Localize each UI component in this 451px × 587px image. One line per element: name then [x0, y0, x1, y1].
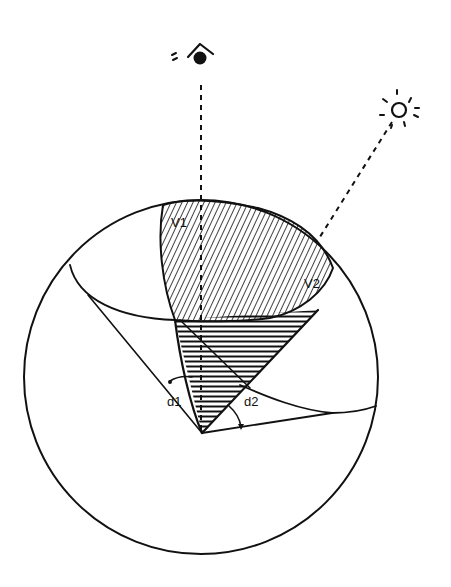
angle-d1-marker [168, 380, 172, 384]
horizon-arc-right [240, 385, 376, 413]
cone-lower-shading [175, 310, 318, 433]
radius-line-right [202, 413, 332, 433]
label-v2: V2 [304, 276, 320, 291]
label-v1: V1 [171, 215, 187, 230]
sphere-diagram: V1 V2 d1 d2 [0, 0, 451, 587]
eye-icon [172, 44, 213, 65]
label-d1: d1 [167, 394, 181, 409]
light-line [318, 122, 392, 240]
angle-arc-d2 [228, 405, 241, 427]
sun-icon [380, 90, 419, 128]
horizon-arc-left [70, 265, 175, 320]
label-d2: d2 [244, 394, 258, 409]
angle-arc-d1 [170, 376, 192, 381]
